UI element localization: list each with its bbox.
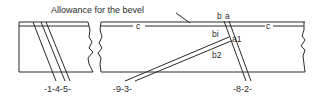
allowance-label: Allowance for the bevel xyxy=(51,5,144,15)
right-plate xyxy=(98,13,305,81)
b2-label: b2 xyxy=(212,50,222,60)
middle-group-label: -9-3- xyxy=(113,84,132,94)
a1-label: a1 xyxy=(232,34,242,44)
annotations: Allowance for the bevel c c b a bi a1 b2… xyxy=(44,5,271,94)
a-label: a xyxy=(225,11,230,21)
bevel-allowance-diagram: Allowance for the bevel c c b a bi a1 b2… xyxy=(0,0,320,98)
b-label: b xyxy=(217,11,222,21)
right-group-label: -8-2- xyxy=(233,84,252,94)
bi-label: bi xyxy=(212,29,219,39)
left-plate xyxy=(19,22,93,81)
left-group-label: -1-4-5- xyxy=(44,84,71,94)
